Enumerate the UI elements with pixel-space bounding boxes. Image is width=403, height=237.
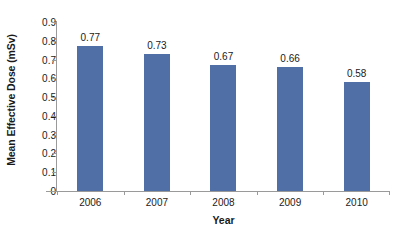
bar[interactable] — [144, 54, 170, 191]
x-axis-title: Year — [57, 214, 390, 226]
bar[interactable] — [77, 46, 103, 191]
y-axis-title: Mean Effective Dose (mSv) — [0, 0, 22, 200]
x-axis-tick-mark — [124, 191, 125, 195]
bar-group: 0.73 — [124, 22, 191, 191]
bar-chart: Mean Effective Dose (mSv) 0.90.80.70.60.… — [0, 0, 403, 237]
bar-group: 0.77 — [57, 22, 124, 191]
x-axis-tick-label: 2009 — [257, 197, 324, 208]
x-axis-tick-mark — [257, 191, 258, 195]
bar[interactable] — [344, 82, 370, 191]
bar-group: 0.58 — [323, 22, 390, 191]
bar-value-label: 0.67 — [214, 51, 233, 62]
x-axis-tick-label: 2006 — [57, 197, 124, 208]
x-axis-tick-mark — [57, 191, 58, 195]
y-axis-title-text: Mean Effective Dose (mSv) — [5, 34, 17, 166]
bar[interactable] — [277, 67, 303, 191]
bar-value-label: 0.77 — [81, 32, 100, 43]
bar-group: 0.66 — [257, 22, 324, 191]
x-axis-tick-mark — [190, 191, 191, 195]
x-axis-tick-mark — [323, 191, 324, 195]
bar-value-label: 0.58 — [347, 68, 366, 79]
plot-area: 0.770.730.670.660.58 — [57, 22, 390, 191]
bar[interactable] — [210, 65, 236, 191]
x-axis-tick-label: 2007 — [124, 197, 191, 208]
bar-group: 0.67 — [190, 22, 257, 191]
x-axis-tick-mark — [389, 191, 390, 195]
bar-value-label: 0.73 — [147, 40, 166, 51]
x-axis-tick-marks — [57, 191, 390, 196]
x-axis-tick-labels: 20062007200820092010 — [57, 197, 390, 213]
y-axis-tick-labels: 0.90.80.70.60.50.40.30.20.10 — [22, 0, 56, 237]
x-axis-tick-label: 2008 — [190, 197, 257, 208]
x-axis-tick-label: 2010 — [323, 197, 390, 208]
bar-value-label: 0.66 — [280, 53, 299, 64]
